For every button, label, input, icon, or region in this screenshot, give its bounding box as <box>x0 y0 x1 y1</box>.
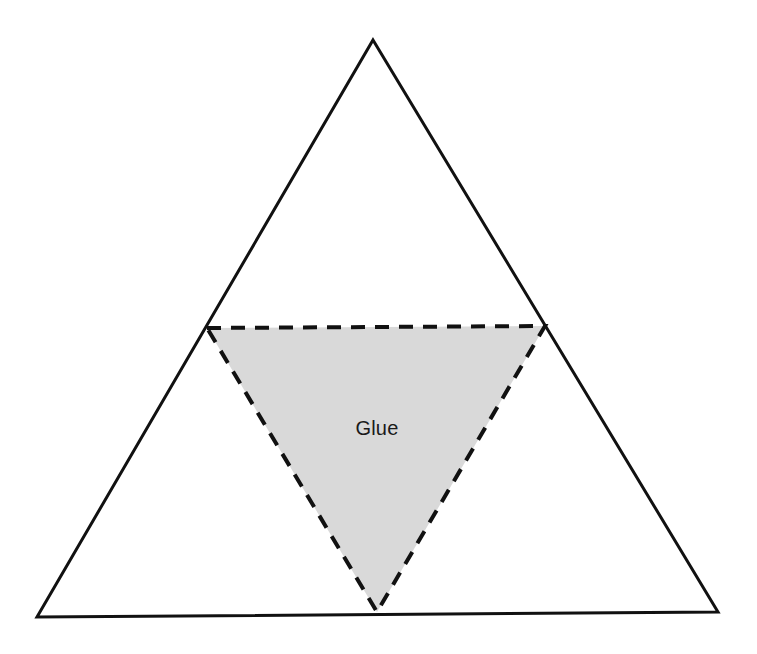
triangle-diagram: Glue <box>0 0 757 654</box>
diagram-canvas: Glue <box>0 0 757 654</box>
glue-label: Glue <box>355 417 398 439</box>
